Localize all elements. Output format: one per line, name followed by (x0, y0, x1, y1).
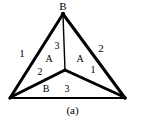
vertex-dot-bottom-right (123, 96, 127, 100)
vertex-dot-center (63, 68, 66, 71)
right-outer-edge (63, 14, 125, 98)
spoke-label-top-3: 3 (55, 40, 60, 51)
center-to-top-spoke (63, 15, 65, 70)
vertex-label-top-b: B (59, 1, 66, 12)
edge-label-left-1: 1 (19, 48, 25, 59)
bottom-label-b: B (43, 83, 50, 94)
spoke-label-right-1: 1 (91, 64, 96, 75)
region-label-left-a: A (45, 53, 52, 64)
vertex-dot-top (61, 12, 65, 16)
vertex-dot-bottom-left (8, 96, 11, 99)
bottom-label-3: 3 (65, 83, 70, 94)
region-label-right-a: A (76, 53, 83, 64)
edge-label-right-2: 2 (98, 43, 104, 54)
spoke-label-left-2: 2 (38, 66, 43, 77)
figure-caption: (a) (0, 104, 145, 116)
figure-container: B 1 2 3 A A 2 1 B 3 (a) (0, 0, 145, 126)
